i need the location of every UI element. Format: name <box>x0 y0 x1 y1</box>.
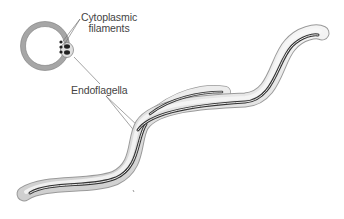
label-endoflagella: Endoflagella <box>71 85 128 96</box>
leader-lines <box>63 19 138 133</box>
cytoplasmic-filament-dot <box>59 40 62 43</box>
label-cytoplasmic-filaments: Cytoplasmic filaments <box>80 12 138 34</box>
body-mark <box>133 190 134 192</box>
cross-section <box>21 22 74 71</box>
spirochete-diagram: Cytoplasmic filaments Endoflagella <box>0 0 344 219</box>
cytoplasmic-filament-dot <box>59 45 62 48</box>
endoflagellum-dot <box>64 44 70 48</box>
label-line: filaments <box>80 23 138 34</box>
endoflagellum-dot <box>64 50 70 54</box>
diagram-canvas <box>0 0 344 219</box>
cytoplasmic-filament-dot <box>59 50 62 53</box>
